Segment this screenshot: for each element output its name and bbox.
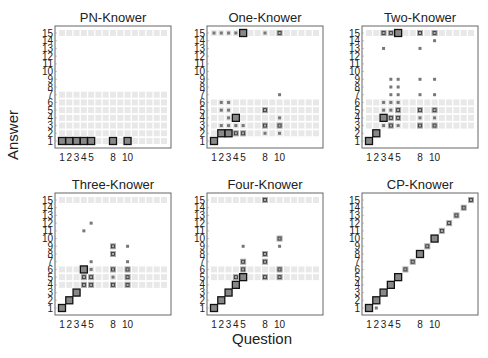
panel-title: Four-Knower [227,177,303,192]
x-tick-label: 4 [388,152,394,163]
x-tick-label: 10 [122,152,134,163]
x-tick-label: 2 [374,319,380,330]
x-tick-label: 1 [211,319,217,330]
x-tick-label: 1 [366,319,372,330]
panel-title: One-Knower [229,10,303,25]
x-tick-label: 10 [429,152,441,163]
panel-three-knower: Three-Knower1234567891011121314151234581… [42,177,171,330]
panel-cp-knower: CP-Knower12345678910111213141512345810 [349,177,478,330]
x-tick-label: 2 [219,152,225,163]
x-axis-label: Question [232,330,292,347]
y-tick-label: 15 [349,28,361,39]
x-tick-label: 8 [262,152,268,163]
x-tick-label: 4 [81,152,87,163]
x-tick-label: 4 [233,319,239,330]
x-tick-label: 1 [366,152,372,163]
y-tick-label: 15 [42,28,54,39]
x-tick-label: 3 [74,319,80,330]
panel-title: PN-Knower [80,10,147,25]
x-tick-label: 5 [240,152,246,163]
y-tick-label: 15 [194,28,206,39]
x-tick-label: 3 [226,152,232,163]
x-tick-label: 4 [233,152,239,163]
panel-title: Three-Knower [72,177,155,192]
x-tick-label: 1 [59,152,65,163]
x-tick-label: 8 [417,152,423,163]
x-tick-label: 10 [429,319,441,330]
knower-level-heatmap-grid: PN-Knower12345678910111213141512345810On… [0,0,488,358]
x-tick-label: 4 [81,319,87,330]
x-tick-label: 2 [67,319,73,330]
y-tick-label: 15 [349,195,361,206]
panel-title: Two-Knower [384,10,457,25]
panel-one-knower: One-Knower12345678910111213141512345810 [194,10,323,163]
x-tick-label: 3 [74,152,80,163]
x-tick-label: 5 [395,319,401,330]
y-axis-label: Answer [4,100,21,160]
x-tick-label: 2 [67,152,73,163]
x-tick-label: 3 [381,152,387,163]
x-tick-label: 8 [417,319,423,330]
x-tick-label: 8 [110,319,116,330]
x-tick-label: 8 [262,319,268,330]
x-tick-label: 10 [274,152,286,163]
x-tick-label: 8 [110,152,116,163]
x-tick-label: 10 [122,319,134,330]
x-tick-label: 5 [240,319,246,330]
x-tick-label: 1 [211,152,217,163]
panel-pn-knower: PN-Knower12345678910111213141512345810 [42,10,171,163]
x-tick-label: 5 [88,152,94,163]
x-tick-label: 3 [226,319,232,330]
panel-four-knower: Four-Knower12345678910111213141512345810 [194,177,323,330]
x-tick-label: 2 [219,319,225,330]
y-tick-label: 15 [42,195,54,206]
x-tick-label: 5 [88,319,94,330]
x-tick-label: 10 [274,319,286,330]
panel-two-knower: Two-Knower12345678910111213141512345810 [349,10,478,163]
x-tick-label: 5 [395,152,401,163]
x-tick-label: 1 [59,319,65,330]
y-tick-label: 15 [194,195,206,206]
x-tick-label: 4 [388,319,394,330]
x-tick-label: 3 [381,319,387,330]
panel-title: CP-Knower [387,177,454,192]
x-tick-label: 2 [374,152,380,163]
